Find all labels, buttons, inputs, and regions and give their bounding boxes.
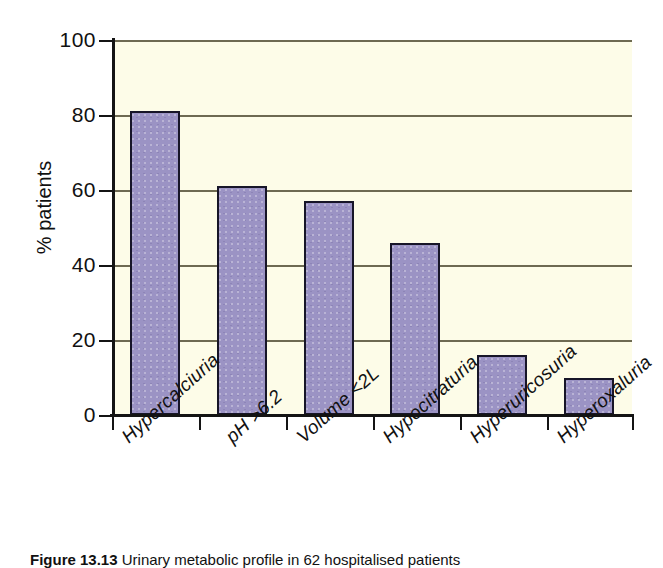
y-tick-40 [99, 265, 113, 267]
bar-ph-6-2 [217, 186, 267, 415]
y-tick-label-80: 80 [38, 104, 96, 125]
x-tick-1 [199, 416, 201, 430]
x-tick-4 [460, 416, 462, 430]
y-tick-label-20: 20 [38, 329, 96, 350]
figure-caption-text: Urinary metabolic profile in 62 hospital… [122, 551, 461, 568]
figure-bar-chart: 100 80 60 40 20 0 % patients Hypercalciu… [0, 0, 663, 568]
bar-texture [306, 203, 352, 413]
y-tick-0 [99, 415, 113, 417]
x-tick-2 [286, 416, 288, 430]
x-tick-6 [632, 416, 634, 430]
figure-caption: Figure 13.13 Urinary metabolic profile i… [30, 551, 650, 568]
y-axis-line [112, 38, 115, 417]
bar-texture [219, 188, 265, 413]
x-axis-line [110, 414, 634, 417]
bar-texture [132, 113, 178, 413]
bar-hypercalciuria [130, 111, 180, 415]
figure-caption-number: Figure 13.13 [30, 551, 118, 568]
x-tick-0 [112, 416, 114, 430]
y-tick-60 [99, 190, 113, 192]
y-axis-title: % patients [33, 128, 56, 288]
y-tick-20 [99, 340, 113, 342]
y-tick-100 [99, 40, 113, 42]
x-tick-3 [373, 416, 375, 430]
x-tick-5 [547, 416, 549, 430]
y-tick-label-0: 0 [38, 404, 96, 425]
y-tick-label-100: 100 [38, 29, 96, 50]
y-tick-80 [99, 115, 113, 117]
